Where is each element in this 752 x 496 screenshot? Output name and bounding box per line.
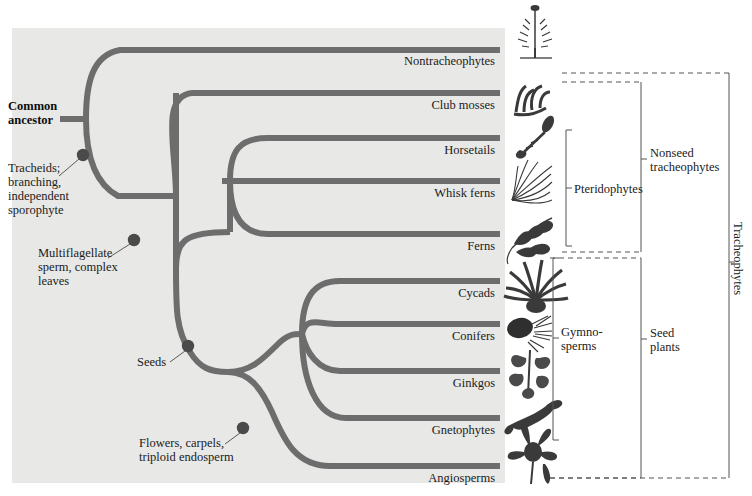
annotation-multiflagellate-sperm: Multiflagellate sperm, complex leaves [38,246,118,288]
annotation-tracheids-line3: independent [8,189,69,203]
bracket-pteridophytes [566,130,572,246]
whisk-fern-icon [512,160,552,203]
bracket-label-nonseed-line1: Nonseed [650,146,719,160]
annotation-flowers-carpels: Flowers, carpels, triploid endosperm [139,436,234,464]
tip-label-gnetophytes: Gnetophytes [290,424,495,437]
annotation-flowers-line1: Flowers, carpels, [139,436,234,450]
tip-label-angiosperms: Angiosperms [290,472,495,485]
annotation-multiflagellate-line3: leaves [38,274,118,288]
horsetail-icon [516,114,557,159]
tip-label-whisk-ferns: Whisk ferns [290,187,495,200]
bracket-label-seed-plants: Seed plants [650,326,680,355]
bracket-seed-plants [550,258,647,478]
bracket-label-gymnosperms-line1: Gymno- [561,325,603,339]
bracket-label-nonseed-tracheophytes: Nonseed tracheophytes [650,146,719,175]
common-ancestor-line2: ancestor [8,113,57,127]
gnetophyte-icon [504,400,562,434]
annotation-tracheids-line4: sporophyte [8,203,69,217]
annotation-tracheids-line1: Tracheids; [8,161,69,175]
bracket-nonseed-tracheophytes [562,82,647,252]
common-ancestor-line1: Common [8,99,57,113]
bracket-label-nonseed-line2: tracheophytes [650,160,719,174]
plant-illustrations [504,5,568,484]
tip-label-ferns: Ferns [290,240,495,253]
bracket-tracheophytes [550,73,735,478]
cycad-icon [504,260,568,300]
annotation-tracheids: Tracheids; branching, independent sporop… [8,161,69,217]
bracket-label-pteridophytes: Pteridophytes [574,182,643,196]
annotation-multiflagellate-line2: sperm, complex [38,260,118,274]
flower-icon [508,422,557,484]
node-dot-flowers [237,422,249,434]
bracket-label-gymnosperms-line2: sperms [561,339,603,353]
figure-root: Nontracheophytes Club mosses Horsetails … [0,0,752,496]
tip-label-horsetails: Horsetails [290,144,495,157]
common-ancestor-label: Common ancestor [8,99,57,127]
ginkgo-icon [509,350,550,399]
bracket-label-seed-plants-line2: plants [650,340,680,354]
fern-frond-icon [507,218,553,264]
tip-label-cycads: Cycads [290,287,495,300]
annotation-multiflagellate-line1: Multiflagellate [38,246,118,260]
annotation-seeds: Seeds [137,355,166,369]
annotation-flowers-line2: triploid endosperm [139,450,234,464]
tip-label-ginkgos: Ginkgos [290,377,495,390]
annotation-seeds-line1: Seeds [137,355,166,369]
bracket-label-seed-plants-line1: Seed [650,326,680,340]
annotation-tracheids-line2: branching, [8,175,69,189]
tip-label-club-mosses: Club mosses [290,99,495,112]
bracket-label-tracheophytes-line1: Tracheophytes [731,222,745,295]
tip-label-nontracheophytes: Nontracheophytes [290,55,495,68]
moss-plant-icon [518,5,552,58]
bracket-label-pteridophytes-line1: Pteridophytes [574,182,643,196]
cycad-trunk [526,299,546,313]
node-dot-seeds [182,340,194,352]
conifer-cone-icon [505,316,552,352]
tip-label-conifers: Conifers [290,330,495,343]
club-moss-icon [514,86,550,115]
bracket-label-tracheophytes: Tracheophytes [731,222,745,295]
bracket-label-gymnosperms: Gymno- sperms [561,325,603,354]
